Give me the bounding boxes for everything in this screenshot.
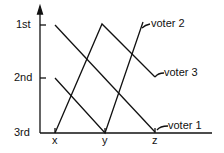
y-tick-label-3rd: 3rd (14, 127, 30, 138)
x-tick-label-z: z (152, 135, 158, 146)
x-tick-label-y: y (102, 135, 108, 146)
voter-1-label: voter 1 (168, 120, 202, 131)
voter-2-leader (142, 24, 150, 28)
voter-3-label: voter 3 (164, 67, 198, 78)
x-tick-label-x: x (52, 135, 58, 146)
y-tick-label-1st: 1st (16, 19, 31, 30)
y-tick-label-2nd: 2nd (14, 72, 32, 83)
voter-1-leader (157, 126, 168, 130)
voter-2-label: voter 2 (151, 18, 185, 29)
voter-1-line (55, 25, 155, 132)
y-axis-arrow-icon (38, 6, 43, 14)
voter-3-leader (155, 73, 164, 77)
